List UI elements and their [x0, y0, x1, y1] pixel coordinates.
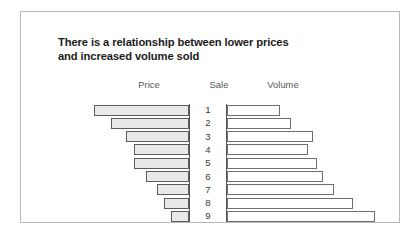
sale-row-label: 9	[195, 210, 221, 222]
volume-bar	[227, 144, 308, 155]
sale-row-label: 6	[195, 171, 221, 183]
price-axis-line	[189, 104, 190, 223]
sale-row-label: 2	[195, 117, 221, 129]
volume-bar	[227, 118, 291, 129]
butterfly-chart-plot-area: Price Sale Volume 123456789	[21, 12, 400, 223]
volume-bar	[227, 211, 375, 222]
volume-bar	[227, 171, 323, 182]
price-bar	[157, 184, 189, 195]
price-bar	[94, 105, 189, 116]
price-bar	[134, 158, 189, 169]
volume-bar	[227, 131, 313, 142]
sale-row-label: 1	[195, 104, 221, 116]
figure-frame: There is a relationship between lower pr…	[20, 11, 400, 223]
column-header-price: Price	[109, 79, 189, 90]
sale-row-label: 3	[195, 131, 221, 143]
sale-row-label: 8	[195, 197, 221, 209]
column-header-volume: Volume	[243, 79, 323, 90]
price-bar	[171, 211, 189, 222]
sale-row-label: 7	[195, 184, 221, 196]
sale-row-label: 5	[195, 157, 221, 169]
volume-bar	[227, 184, 334, 195]
volume-bar	[227, 198, 353, 209]
price-bar	[146, 171, 189, 182]
price-bar	[126, 131, 189, 142]
volume-bar	[227, 158, 317, 169]
sale-row-label: 4	[195, 144, 221, 156]
price-bar	[164, 198, 189, 209]
price-bar	[134, 144, 189, 155]
price-bar	[111, 118, 189, 129]
volume-bar	[227, 105, 280, 116]
